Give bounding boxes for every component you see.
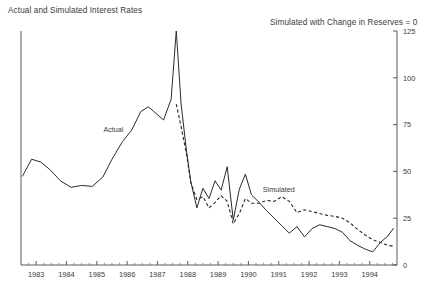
- y-tick-label: 25: [403, 214, 411, 223]
- x-tick-label: 1984: [58, 270, 74, 279]
- y-tick-label: 125: [403, 27, 415, 36]
- chart-annotations: ActualSimulated: [103, 125, 294, 194]
- chart-figure: Actual and Simulated Interest Rates Simu…: [0, 0, 432, 290]
- x-tick-label: 1985: [89, 270, 105, 279]
- series-line-simulated: [176, 104, 393, 246]
- x-tick-label: 1993: [331, 270, 347, 279]
- x-tick-label: 1989: [210, 270, 226, 279]
- x-tick-label: 1987: [149, 270, 165, 279]
- series-label-actual: Actual: [103, 125, 123, 134]
- x-tick-label: 1983: [28, 270, 44, 279]
- x-tick-label: 1994: [361, 270, 377, 279]
- x-tick-label: 1988: [180, 270, 196, 279]
- x-tick-label: 1990: [240, 270, 256, 279]
- chart-title: Actual and Simulated Interest Rates: [8, 6, 142, 15]
- series-line-actual: [23, 31, 394, 252]
- y-tick-label: 100: [403, 74, 415, 83]
- series-label-simulated: Simulated: [263, 185, 295, 194]
- chart-series: [23, 31, 394, 252]
- chart-subtitle: Simulated with Change in Reserves = 0: [270, 18, 417, 27]
- x-tick-label: 1992: [301, 270, 317, 279]
- x-tick-label: 1991: [271, 270, 287, 279]
- y-tick-label: 50: [403, 167, 411, 176]
- y-tick-label: 0: [403, 261, 407, 270]
- x-tick-label: 1986: [119, 270, 135, 279]
- y-tick-label: 75: [403, 120, 411, 129]
- line-chart-plot: 0255075100125198319841985198619871988198…: [0, 0, 432, 290]
- chart-axes: 0255075100125198319841985198619871988198…: [21, 27, 415, 279]
